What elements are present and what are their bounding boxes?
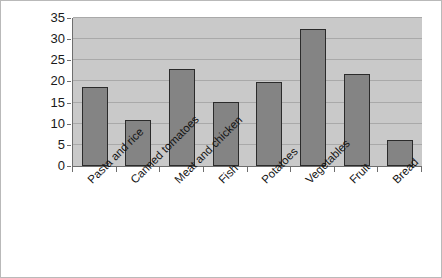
plot-area [72,18,422,167]
y-axis-tick-label: 10 [51,117,65,130]
y-axis-tick-mark [67,60,71,61]
bar-chart: 05101520253035 Pasta and riceCanned toma… [0,0,442,278]
y-axis-tick-mark [67,39,71,40]
bar [387,140,413,166]
x-axis-tick-mark [334,167,335,172]
y-axis-tick-label: 25 [51,53,65,66]
y-axis-tick-label: 5 [58,138,65,151]
y-axis-tick-mark [67,145,71,146]
x-axis-tick-mark [159,167,160,172]
bar [256,82,282,166]
gridline [73,17,422,18]
bar [300,29,326,166]
x-axis-ticks [72,167,422,173]
gridline [73,38,422,39]
x-axis-tick-mark [72,167,73,172]
bar [344,74,370,166]
x-axis-tick-mark [116,167,117,172]
bar [169,69,195,166]
y-axis-tick-mark [67,166,71,167]
y-axis-tick-label: 20 [51,74,65,87]
y-axis-tick-mark [67,103,71,104]
y-axis-tick-mark [67,18,71,19]
x-axis-tick-mark [203,167,204,172]
x-axis-tick-mark [290,167,291,172]
y-axis-tick-label: 35 [51,11,65,24]
bar [213,102,239,166]
y-axis-tick-label: 0 [58,159,65,172]
y-axis: 05101520253035 [35,1,65,278]
x-axis-tick-mark [377,167,378,172]
y-axis-tick-label: 15 [51,96,65,109]
x-axis-tick-mark [421,167,422,172]
x-axis-tick-mark [247,167,248,172]
y-axis-tick-mark [67,81,71,82]
bar [82,87,108,166]
gridline [73,59,422,60]
y-axis-tick-label: 30 [51,32,65,45]
y-axis-tick-mark [67,124,71,125]
bar [125,120,151,166]
